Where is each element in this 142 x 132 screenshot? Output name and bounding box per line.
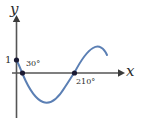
tick-label-30-degrees: 30° — [26, 60, 40, 68]
point-y-intercept — [14, 57, 19, 62]
x-axis-arrow-icon — [118, 69, 125, 77]
y-axis-label: y — [10, 2, 18, 17]
tick-label-210-degrees: 210° — [76, 78, 95, 86]
point-zero-210deg — [72, 70, 77, 75]
plot-canvas — [0, 0, 142, 132]
sine-curve-path — [17, 47, 108, 103]
point-zero-30deg — [20, 70, 25, 75]
y-intercept-label: 1 — [5, 55, 11, 65]
x-axis-label: x — [126, 64, 134, 79]
sine-curve-figure: y x 1 30° 210° — [0, 0, 142, 132]
x-axis — [12, 69, 125, 77]
